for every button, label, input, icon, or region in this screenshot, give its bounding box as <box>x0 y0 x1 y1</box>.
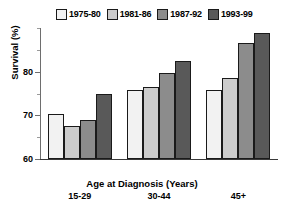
legend-swatch-1975-80 <box>56 9 67 20</box>
x-category-label-30-44: 30-44 <box>147 191 170 200</box>
survival-bar-chart: 1975-80 1981-86 1987-92 1993-99 607080 1… <box>0 0 284 200</box>
bar-45+-1975-80 <box>206 90 222 159</box>
x-category-label-15-29: 15-29 <box>68 191 91 200</box>
y-tick-minor-85 <box>37 50 40 51</box>
y-tick-major-70 <box>35 115 40 116</box>
legend-swatch-1981-86 <box>107 9 118 20</box>
y-axis-line <box>40 28 41 159</box>
y-tick-label-60: 60 <box>23 154 33 164</box>
bar-15-29-1975-80 <box>48 114 64 159</box>
bar-30-44-1975-80 <box>127 90 143 159</box>
x-category-label-45+: 45+ <box>231 191 246 200</box>
bar-30-44-1981-86 <box>143 87 159 159</box>
legend-swatch-1993-99 <box>208 9 219 20</box>
y-tick-minor-90 <box>37 28 40 29</box>
legend-swatch-1987-92 <box>157 9 168 20</box>
y-tick-minor-65 <box>37 137 40 138</box>
y-axis-title: Survival (%) <box>9 0 20 113</box>
legend-label-1981-86: 1981-86 <box>120 9 152 19</box>
bar-15-29-1981-86 <box>64 126 80 159</box>
x-axis-title: Age at Diagnosis (Years) <box>0 178 284 189</box>
plot-area: 607080 15-2930-4445+ <box>40 28 278 159</box>
y-tick-minor-75 <box>37 94 40 95</box>
y-tick-major-80 <box>35 72 40 73</box>
legend-item-1993-99: 1993-99 <box>208 9 253 20</box>
bar-15-29-1987-92 <box>80 120 96 159</box>
y-tick-label-80: 80 <box>23 67 33 77</box>
legend-item-1975-80: 1975-80 <box>56 9 101 20</box>
bar-30-44-1987-92 <box>159 73 175 159</box>
bar-45+-1981-86 <box>222 78 238 159</box>
y-tick-major-60 <box>35 159 40 160</box>
legend-item-1987-92: 1987-92 <box>157 9 202 20</box>
legend-label-1975-80: 1975-80 <box>69 9 101 19</box>
bar-45+-1993-99 <box>254 33 270 159</box>
bar-45+-1987-92 <box>238 43 254 159</box>
legend-label-1993-99: 1993-99 <box>221 9 253 19</box>
legend-label-1987-92: 1987-92 <box>170 9 202 19</box>
chart-legend: 1975-80 1981-86 1987-92 1993-99 <box>56 6 280 22</box>
x-axis-line <box>40 159 278 160</box>
bar-15-29-1993-99 <box>96 94 112 159</box>
bar-30-44-1993-99 <box>175 61 191 159</box>
y-tick-label-70: 70 <box>23 110 33 120</box>
legend-item-1981-86: 1981-86 <box>107 9 152 20</box>
